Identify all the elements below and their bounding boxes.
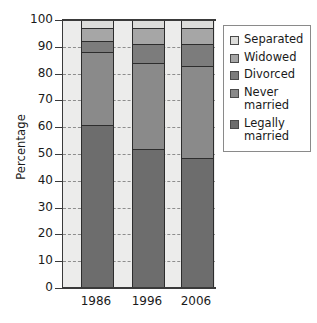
legend-item-never-married[interactable]: Never married (230, 86, 305, 113)
bar-segment-never-married[interactable] (81, 52, 114, 124)
y-axis-tick (55, 234, 62, 235)
bar-segment-legally-married[interactable] (132, 149, 165, 288)
bar-segment-separated[interactable] (132, 20, 165, 28)
y-axis-tick-label: 100 (7, 12, 53, 26)
legend-item-separated[interactable]: Separated (230, 33, 305, 47)
bar-segment-widowed[interactable] (181, 28, 214, 44)
legend-swatch-icon (230, 120, 239, 129)
legend-swatch-icon (230, 71, 239, 80)
y-axis-tick (55, 74, 62, 75)
y-axis-tick-label: 40 (7, 173, 53, 187)
bar-segment-never-married[interactable] (181, 66, 214, 158)
y-axis-tick-label: 70 (7, 92, 53, 106)
y-axis-tick (55, 261, 62, 262)
legend-item-legally-married[interactable]: Legally married (230, 117, 305, 144)
y-axis-tick (55, 288, 62, 289)
y-axis-tick (55, 181, 62, 182)
bar-segment-never-married[interactable] (132, 63, 165, 149)
y-axis-tick (55, 127, 62, 128)
bar-segment-separated[interactable] (181, 20, 214, 28)
legend-item-label: Separated (244, 33, 303, 47)
bar-2006[interactable] (181, 20, 214, 288)
y-axis-tick-label: 0 (7, 280, 53, 294)
bar-segment-legally-married[interactable] (181, 158, 214, 288)
legend-swatch-icon (230, 36, 239, 45)
legend-item-widowed[interactable]: Widowed (230, 51, 305, 65)
y-axis-tick-label: 20 (7, 226, 53, 240)
y-axis-tick (55, 100, 62, 101)
y-axis-tick (55, 208, 62, 209)
y-axis-tick (55, 154, 62, 155)
bar-segment-separated[interactable] (81, 20, 114, 28)
y-axis-tick (55, 47, 62, 48)
bar-segment-widowed[interactable] (132, 28, 165, 44)
legend-item-label: Never married (244, 86, 289, 113)
x-axis-label-2006: 2006 (166, 294, 226, 308)
bar-segment-widowed[interactable] (81, 28, 114, 41)
y-axis-tick-label: 10 (7, 253, 53, 267)
bar-1996[interactable] (132, 20, 165, 288)
y-axis-tick-label: 30 (7, 200, 53, 214)
y-axis-tick-label: 90 (7, 39, 53, 53)
legend-swatch-icon (230, 89, 239, 98)
plot-area (62, 20, 215, 288)
y-axis-tick-label: 80 (7, 66, 53, 80)
y-axis-tick-label: 60 (7, 119, 53, 133)
legend: SeparatedWidowedDivorcedNever marriedLeg… (223, 25, 311, 152)
legend-item-divorced[interactable]: Divorced (230, 68, 305, 82)
y-axis-tick (55, 20, 62, 21)
legend-swatch-icon (230, 54, 239, 63)
x-axis-line (62, 287, 216, 289)
bar-segment-divorced[interactable] (81, 41, 114, 52)
bar-1986[interactable] (81, 20, 114, 288)
plot-top-border (62, 19, 216, 21)
bar-segment-divorced[interactable] (132, 44, 165, 63)
stacked-bar-chart: Percentage 1009080706050403020100 198619… (0, 0, 317, 323)
legend-item-label: Legally married (244, 117, 289, 144)
legend-item-label: Widowed (244, 51, 296, 65)
legend-item-label: Divorced (244, 68, 295, 82)
bar-segment-legally-married[interactable] (81, 125, 114, 288)
y-axis-tick-label: 50 (7, 146, 53, 160)
bar-segment-divorced[interactable] (181, 44, 214, 65)
